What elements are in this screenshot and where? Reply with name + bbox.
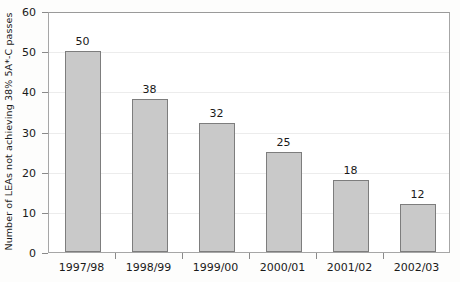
bar-group: 18 [317,13,384,252]
bar-value-label: 25 [277,136,291,149]
bar-value-label: 50 [76,35,90,48]
y-axis-tick-label: 0 [14,247,42,260]
y-axis-tick-mark [42,52,48,53]
plot-area: 503832251812 [48,12,450,253]
bar-chart: Number of LEAs not achieving 38% 5A*-C p… [0,0,460,282]
x-axis-tick-mark [383,253,384,259]
bar-value-label: 32 [210,107,224,120]
y-axis-tick-label: 60 [14,6,42,19]
x-axis-tick-mark [115,253,116,259]
y-axis-tick-mark [42,173,48,174]
bar-group: 32 [183,13,250,252]
x-axis-tick-label: 1998/99 [126,261,172,274]
y-axis-tick-label: 30 [14,126,42,139]
bar-group: 12 [384,13,451,252]
x-axis-tick-mark [249,253,250,259]
bar[interactable] [65,51,101,252]
x-axis-tick-mark [316,253,317,259]
bar[interactable] [266,152,302,252]
bar-value-label: 18 [344,164,358,177]
bar-value-label: 38 [143,83,157,96]
bar-group: 25 [250,13,317,252]
y-axis-tick-label: 10 [14,206,42,219]
bar[interactable] [333,180,369,252]
y-axis-tick-label: 20 [14,166,42,179]
bar-group: 50 [49,13,116,252]
y-axis-title-text: Number of LEAs not achieving 38% 5A*-C p… [3,12,14,250]
bar[interactable] [132,99,168,252]
y-axis-tick-mark [42,92,48,93]
y-axis-tick-label: 40 [14,86,42,99]
x-axis-tick-label: 2000/01 [260,261,306,274]
bar[interactable] [199,123,235,252]
x-axis-tick-label: 1999/00 [193,261,239,274]
x-axis-tick-label: 2001/02 [327,261,373,274]
x-axis-tick-label: 2002/03 [394,261,440,274]
y-axis-tick-mark [42,12,48,13]
bar-group: 38 [116,13,183,252]
y-axis-tick-labels: 0102030405060 [14,0,42,282]
y-axis-tick-mark [42,253,48,254]
bar[interactable] [400,204,436,252]
y-axis-tick-mark [42,213,48,214]
x-axis-tick-mark [182,253,183,259]
bars-layer: 503832251812 [49,13,449,252]
y-axis-tick-mark [42,133,48,134]
y-axis-tick-label: 50 [14,46,42,59]
x-axis-tick-label: 1997/98 [59,261,105,274]
bar-value-label: 12 [411,188,425,201]
